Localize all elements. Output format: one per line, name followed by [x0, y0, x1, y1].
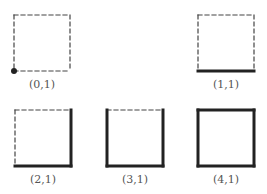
square-figure-4 [198, 110, 254, 166]
label-3: (3,1) [105, 173, 165, 186]
label-2: (2,1) [13, 173, 73, 186]
square-figure-1 [198, 15, 254, 71]
square-figure-0 [11, 15, 70, 74]
corner-dot [11, 68, 17, 74]
square-figure-2 [15, 110, 71, 166]
label-1: (1,1) [196, 78, 256, 91]
square-figure-3 [107, 110, 163, 166]
squares-svg [0, 0, 267, 194]
label-4: (4,1) [196, 173, 256, 186]
label-0: (0,1) [12, 78, 72, 91]
